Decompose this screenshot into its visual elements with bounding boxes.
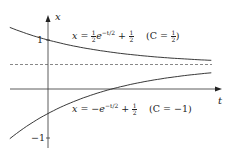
lower-const-fraction: 12 [132,103,137,116]
lower-curve-annotation: x = −e−t/2 + 12 (C = −1) [72,103,192,116]
upper-plus: + [115,30,129,41]
x-axis-arrow-icon [46,15,51,22]
lower-exponent: −t/2 [105,102,118,109]
upper-lhs: x = [72,30,91,41]
t-axis-arrow-icon [215,87,222,92]
lower-lhs: x = − [72,103,99,114]
upper-const-fraction: 12 [129,30,134,43]
lower-c-value: (C = −1) [149,103,192,114]
upper-c-value: (C = 12) [146,30,180,41]
tick-label-1: 1 [37,35,43,45]
upper-curve-annotation: x = 12e−t/2 + 12 (C = 12) [72,30,179,43]
y-axis-label: x [55,12,61,22]
tick-label-minus-1: −1 [31,133,45,143]
lower-plus: + [118,103,132,114]
upper-exponent: −t/2 [102,29,115,36]
plot-canvas [0,0,229,148]
x-axis-label: t [218,96,222,106]
